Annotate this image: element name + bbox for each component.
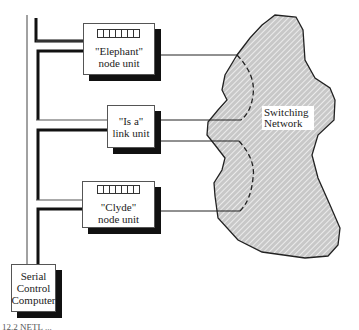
is-a-link-unit: "Is a" link unit <box>107 105 155 148</box>
serial-control-computer: Serial Control Computer <box>11 264 56 312</box>
is-a-name: "Is a" <box>119 115 144 127</box>
status-indicator <box>98 185 140 194</box>
serial-label-3: Computer <box>12 294 56 306</box>
switching-network-label: Switching Network <box>262 106 314 130</box>
figure-caption: 12.2 NETL ... <box>2 322 52 330</box>
serial-label-1: Serial <box>21 270 47 282</box>
status-indicator <box>98 29 140 38</box>
elephant-type: node unit <box>98 57 139 69</box>
elephant-node-unit: "Elephant" node unit <box>83 23 155 75</box>
clyde-name: "Clyde" <box>101 201 136 213</box>
is-a-type: link unit <box>113 127 150 139</box>
elephant-name: "Elephant" <box>95 45 143 57</box>
serial-label-2: Control <box>17 282 51 294</box>
clyde-node-unit: "Clyde" node unit <box>82 181 155 228</box>
switching-network-shape <box>207 15 340 258</box>
network-label-2: Network <box>264 118 312 129</box>
clyde-type: node unit <box>98 213 139 225</box>
